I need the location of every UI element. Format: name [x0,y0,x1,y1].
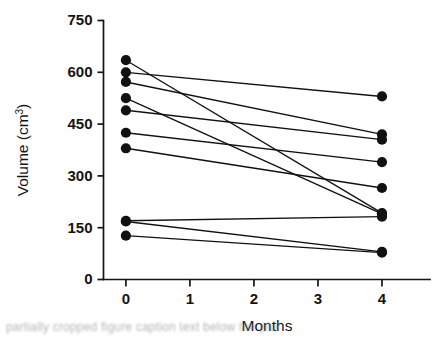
series-line [126,72,382,96]
x-axis-ticks: 01234 [122,280,387,307]
data-point-marker [377,157,387,167]
series-line [126,217,382,221]
data-point-marker [121,67,131,77]
y-axis-title-close: ) [14,104,31,109]
volume-vs-months-chart: 0150300450600750 01234 Months Volume (cm… [0,0,438,346]
figure-caption: partially cropped figure caption text be… [0,316,438,338]
data-point-marker [121,231,131,241]
plot-axes [104,21,431,280]
y-axis-ticks: 0150300450600750 [67,11,103,287]
y-axis-title-base: Volume (cm [14,114,31,196]
x-tick-label: 0 [122,290,130,307]
y-tick-label: 750 [67,11,92,28]
data-point-marker [377,135,387,145]
series-line [126,110,382,139]
x-tick-label: 3 [314,290,322,307]
series-lines [126,60,382,252]
data-point-marker [377,212,387,222]
series-line [126,98,382,214]
data-point-marker [377,247,387,257]
x-tick-label: 4 [378,290,387,307]
data-point-marker [121,93,131,103]
data-point-marker [377,91,387,101]
series-line [126,221,382,251]
x-tick-label: 2 [250,290,258,307]
data-point-marker [121,77,131,87]
y-axis-title: Volume (cm3) [14,104,31,197]
data-point-marker [121,128,131,138]
figure-container: 0150300450600750 01234 Months Volume (cm… [0,0,438,346]
x-tick-label: 1 [186,290,194,307]
y-tick-label: 150 [67,219,92,236]
figure-caption-strip: partially cropped figure caption text be… [0,316,438,346]
y-tick-label: 300 [67,167,92,184]
series-line [126,148,382,188]
series-line [126,236,382,253]
data-point-marker [121,216,131,226]
y-tick-label: 0 [84,270,92,287]
data-point-marker [377,183,387,193]
data-point-marker [121,143,131,153]
y-tick-label: 600 [67,63,92,80]
series-line [126,82,382,134]
data-point-marker [121,105,131,115]
y-tick-label: 450 [67,115,92,132]
data-point-marker [121,55,131,65]
